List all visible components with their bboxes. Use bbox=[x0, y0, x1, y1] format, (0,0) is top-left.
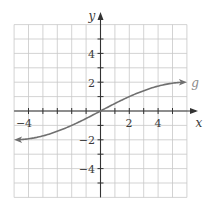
curve-label-g: g bbox=[191, 76, 199, 90]
tick-label-x-2: 2 bbox=[126, 117, 133, 130]
y-axis-arrow-icon bbox=[98, 12, 104, 20]
tick-label-y-2: 2 bbox=[88, 77, 95, 90]
x-axis-label: x bbox=[196, 116, 203, 130]
tick-label-y-neg4: −4 bbox=[79, 163, 95, 176]
tick-label-y-4: 4 bbox=[88, 48, 95, 61]
tick-label-x-4: 4 bbox=[155, 117, 162, 130]
y-axis-label: y bbox=[88, 9, 96, 23]
tick-label-y-neg2: −2 bbox=[79, 134, 95, 147]
tick-label-x-neg4: −4 bbox=[16, 117, 32, 130]
axes bbox=[14, 12, 198, 197]
x-axis-arrow-icon bbox=[190, 108, 198, 114]
function-graph: −4 2 4 4 2 −2 −4 x y g bbox=[0, 0, 208, 205]
